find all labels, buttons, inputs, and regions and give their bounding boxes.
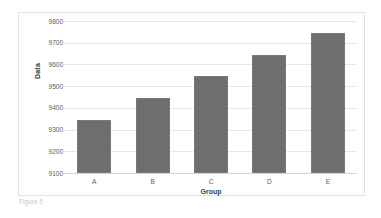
bar-slot [65, 21, 123, 173]
plot-area [65, 21, 357, 173]
y-tick-label: 9400 [33, 104, 63, 111]
bar[interactable] [311, 33, 345, 173]
y-tick-label: 9100 [33, 170, 63, 177]
bar[interactable] [77, 120, 111, 173]
bar[interactable] [136, 98, 170, 173]
clipped-caption-text: Figure 5 [19, 199, 139, 206]
y-tick-label: 9800 [33, 18, 63, 25]
bar-slot [123, 21, 181, 173]
gridline [65, 173, 357, 174]
bar[interactable] [194, 76, 228, 173]
bar-slot [240, 21, 298, 173]
bars-layer [65, 21, 357, 173]
y-tick-mark [62, 173, 65, 174]
y-tick-label: 9600 [33, 61, 63, 68]
y-tick-label: 9300 [33, 126, 63, 133]
chart-frame: Data 9800 9700 9600 9500 9400 9300 9200 … [18, 12, 365, 196]
clipped-caption: Figure 5 [19, 199, 139, 207]
bar[interactable] [252, 55, 286, 173]
y-tick-label: 9500 [33, 83, 63, 90]
bar-slot [182, 21, 240, 173]
bar-slot [299, 21, 357, 173]
y-axis-tick-labels: 9800 9700 9600 9500 9400 9300 9200 9100 [33, 21, 63, 173]
chart-plot-wrapper: Data 9800 9700 9600 9500 9400 9300 9200 … [19, 13, 364, 195]
y-tick-label: 9700 [33, 39, 63, 46]
y-tick-label: 9200 [33, 148, 63, 155]
x-axis-title: Group [65, 187, 357, 196]
